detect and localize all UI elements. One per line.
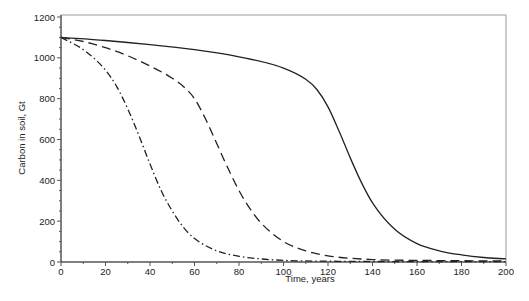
- plot-frame: [61, 15, 506, 262]
- x-tick-label: 20: [100, 266, 111, 277]
- x-tick-label: 40: [145, 266, 156, 277]
- y-tick-label: 1000: [34, 52, 55, 63]
- x-tick-label: 60: [189, 266, 200, 277]
- y-tick-label: 0: [50, 257, 55, 268]
- line-chart: 020040060080010001200 020406080100120140…: [0, 0, 529, 301]
- x-tick-label: 180: [454, 266, 470, 277]
- series-line-dashed: [61, 37, 506, 261]
- y-axis: 020040060080010001200: [34, 12, 61, 268]
- series-line-solid: [61, 37, 506, 259]
- x-tick-label: 200: [498, 266, 514, 277]
- x-tick-label: 80: [234, 266, 245, 277]
- series-group: [61, 37, 506, 261]
- y-tick-label: 1200: [34, 12, 55, 23]
- x-tick-label: 160: [409, 266, 425, 277]
- y-tick-label: 600: [39, 134, 55, 145]
- y-tick-label: 400: [39, 175, 55, 186]
- x-axis-label: Time, years: [285, 273, 335, 284]
- y-tick-label: 800: [39, 93, 55, 104]
- x-tick-label: 0: [58, 266, 63, 277]
- y-tick-label: 200: [39, 216, 55, 227]
- x-tick-label: 140: [365, 266, 381, 277]
- series-line-dash-dot: [61, 37, 506, 261]
- y-axis-label: Carbon in soil, Gt: [16, 101, 27, 175]
